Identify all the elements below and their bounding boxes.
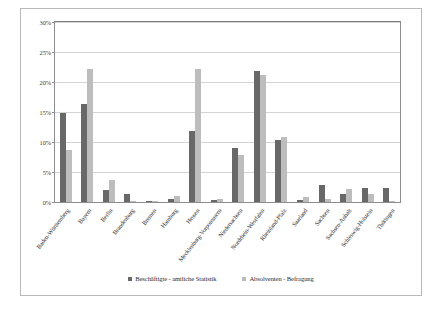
x-tick-cell: Bayern <box>76 205 98 283</box>
x-tick-cell: Sachsen <box>314 205 336 283</box>
x-tick-cell: Berlin <box>97 205 119 283</box>
bar-group <box>98 22 120 202</box>
legend-swatch <box>242 277 246 281</box>
bar <box>325 199 331 202</box>
bar <box>130 201 136 202</box>
x-axis-labels: Baden-WürttembergBayernBerlinBrandenburg… <box>54 205 401 283</box>
bar-group <box>77 22 99 202</box>
bar-group <box>55 22 77 202</box>
x-tick-cell: Rheinland-Pfalz <box>271 205 293 283</box>
bar-group <box>378 22 400 202</box>
legend-item: Absolventen - Befragung <box>242 275 313 282</box>
chart-figure: 0%5%10%15%20%25%30% Baden-WürttembergBay… <box>20 8 422 296</box>
y-tick-mark <box>52 202 55 203</box>
x-tick-cell: Baden-Württemberg <box>54 205 76 283</box>
x-tick-cell: Hamburg <box>162 205 184 283</box>
bar <box>346 189 352 202</box>
x-tick-label: Hamburg <box>159 207 178 229</box>
plot-area: 0%5%10%15%20%25%30% <box>54 21 401 203</box>
y-tick-label: 20% <box>40 79 51 86</box>
x-tick-cell: Thüringen <box>379 205 401 283</box>
bar-groups <box>55 22 400 202</box>
y-tick-label: 0% <box>43 199 51 206</box>
legend-swatch <box>128 277 132 281</box>
x-tick-cell: Nordrhein-Westfalen <box>249 205 271 283</box>
bar-group <box>141 22 163 202</box>
bar <box>368 194 374 202</box>
x-tick-cell: Bremen <box>141 205 163 283</box>
bar <box>66 150 72 202</box>
bar <box>238 155 244 202</box>
x-tick-label: Bremen <box>140 207 157 226</box>
bar-group <box>249 22 271 202</box>
bar <box>195 69 201 202</box>
x-tick-cell: Brandenburg <box>119 205 141 283</box>
x-tick-label: Baden-Württemberg <box>35 207 71 250</box>
x-tick-label: Bayern <box>76 207 92 225</box>
x-tick-label: Berlin <box>99 207 114 223</box>
bar-group <box>357 22 379 202</box>
x-tick-label: Hessen <box>184 207 200 225</box>
bar-group <box>335 22 357 202</box>
y-tick-label: 15% <box>40 109 51 116</box>
bar <box>109 180 115 202</box>
bar-group <box>163 22 185 202</box>
bar-group <box>228 22 250 202</box>
bar-group <box>292 22 314 202</box>
x-tick-cell: Mecklenburg-Vorpommern <box>206 205 228 283</box>
chart-legend: Beschäftigte - amtliche StatistikAbsolve… <box>21 275 421 282</box>
x-tick-cell: Schleswig-Holstein <box>358 205 380 283</box>
y-tick-label: 30% <box>40 19 51 26</box>
y-tick-label: 10% <box>40 139 51 146</box>
legend-label: Beschäftigte - amtliche Statistik <box>135 275 216 282</box>
bar-group <box>184 22 206 202</box>
bar <box>174 196 180 202</box>
bar-group <box>206 22 228 202</box>
y-tick-label: 25% <box>40 49 51 56</box>
legend-label: Absolventen - Befragung <box>249 275 313 282</box>
x-tick-label: Sachsen <box>313 207 331 227</box>
bar-group <box>120 22 142 202</box>
bar <box>260 75 266 202</box>
x-tick-cell: Saarland <box>293 205 315 283</box>
bar <box>152 201 158 202</box>
bar-group <box>314 22 336 202</box>
bar <box>217 199 223 202</box>
bar-group <box>271 22 293 202</box>
legend-item: Beschäftigte - amtliche Statistik <box>128 275 216 282</box>
bar <box>87 69 93 202</box>
bar <box>389 201 395 202</box>
bar <box>303 197 309 202</box>
x-tick-label: Saarland <box>291 207 309 228</box>
bar <box>281 137 287 202</box>
y-tick-label: 5% <box>43 169 51 176</box>
